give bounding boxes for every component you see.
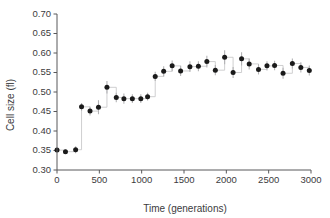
x-tick-label: 3000 xyxy=(300,174,321,185)
y-tick-label: 0.60 xyxy=(33,47,52,58)
data-point xyxy=(79,104,84,109)
data-point xyxy=(298,65,303,70)
data-point xyxy=(63,149,68,154)
data-point xyxy=(213,68,218,73)
data-point xyxy=(170,63,175,68)
x-tick-label: 1500 xyxy=(173,174,194,185)
data-point xyxy=(256,67,261,72)
data-point xyxy=(264,63,269,68)
y-tick-label: 0.35 xyxy=(33,144,52,155)
data-point xyxy=(88,109,93,114)
chart-figure: 0.300.350.400.450.500.550.600.650.700500… xyxy=(0,0,330,218)
data-point xyxy=(138,96,143,101)
y-axis-title: Cell size (fl) xyxy=(5,79,16,131)
data-point xyxy=(247,61,252,66)
x-tick-label: 1000 xyxy=(131,174,152,185)
data-point xyxy=(307,68,312,73)
y-tick-label: 0.65 xyxy=(33,27,52,38)
data-series-group xyxy=(55,50,312,154)
y-tick-label: 0.55 xyxy=(33,66,52,77)
data-point xyxy=(204,59,209,64)
y-tick-label: 0.45 xyxy=(33,105,52,116)
data-point xyxy=(145,94,150,99)
data-point xyxy=(272,63,277,68)
data-point xyxy=(121,96,126,101)
data-point xyxy=(104,85,109,90)
series-connector-line xyxy=(57,57,309,151)
data-point xyxy=(231,70,236,75)
y-tick-label: 0.70 xyxy=(33,8,52,19)
data-point xyxy=(96,105,101,110)
data-point xyxy=(178,68,183,73)
x-tick-label: 0 xyxy=(54,174,59,185)
data-point xyxy=(161,69,166,74)
x-axis-title: Time (generations) xyxy=(143,203,227,214)
data-point xyxy=(153,74,158,79)
x-tick-label: 2500 xyxy=(258,174,279,185)
data-point xyxy=(73,147,78,152)
data-point xyxy=(281,71,286,76)
data-point xyxy=(222,55,227,60)
axis-ticks-group: 0.300.350.400.450.500.550.600.650.700500… xyxy=(33,8,322,186)
data-point xyxy=(196,64,201,69)
data-point xyxy=(187,64,192,69)
x-tick-label: 2000 xyxy=(216,174,237,185)
data-point xyxy=(239,56,244,61)
data-point xyxy=(290,61,295,66)
x-tick-label: 500 xyxy=(91,174,107,185)
y-tick-label: 0.50 xyxy=(33,86,52,97)
cell-size-plot: 0.300.350.400.450.500.550.600.650.700500… xyxy=(0,0,330,218)
y-tick-label: 0.30 xyxy=(33,164,52,175)
data-point xyxy=(130,96,135,101)
data-point xyxy=(114,95,119,100)
y-tick-label: 0.40 xyxy=(33,125,52,136)
